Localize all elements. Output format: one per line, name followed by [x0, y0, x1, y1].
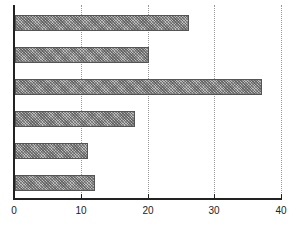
- bar: [15, 143, 88, 159]
- x-tick-label: 0: [0, 205, 29, 216]
- bar: [15, 175, 95, 191]
- gridline: [214, 5, 215, 199]
- x-tick-label: 20: [133, 205, 163, 216]
- bar: [15, 15, 189, 31]
- tick-mark: [281, 194, 282, 199]
- x-tick-label: 40: [266, 205, 296, 216]
- bar: [15, 111, 135, 127]
- bar: [15, 47, 149, 63]
- gridline: [148, 5, 149, 199]
- x-tick-label: 10: [66, 205, 96, 216]
- gridline: [281, 5, 282, 199]
- y-axis-line: [13, 5, 15, 200]
- tick-mark: [214, 194, 215, 199]
- gridline: [81, 5, 82, 199]
- tick-mark: [81, 194, 82, 199]
- horizontal-bar-chart: 0 10 20 30 40: [0, 0, 296, 228]
- tick-mark: [148, 194, 149, 199]
- x-tick-label: 30: [199, 205, 229, 216]
- bar: [15, 79, 262, 95]
